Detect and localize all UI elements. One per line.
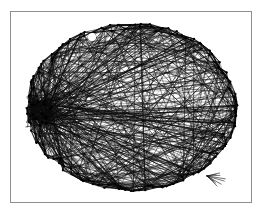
- graph-node: [119, 185, 121, 187]
- graph-node: [165, 185, 167, 187]
- graph-node: [93, 181, 95, 183]
- graph-node: [40, 63, 42, 65]
- graph-node: [37, 71, 39, 73]
- graph-node: [33, 86, 35, 88]
- graph-node: [55, 52, 57, 54]
- graph-node: [80, 179, 82, 181]
- graph-node: [227, 87, 229, 89]
- graph-node: [181, 176, 183, 178]
- graph-node: [80, 33, 82, 35]
- graph-node: [203, 167, 205, 169]
- graph-node: [68, 41, 70, 43]
- white-hole: [88, 33, 96, 41]
- graph-node: [211, 53, 213, 55]
- graph-node: [114, 183, 116, 185]
- graph-node: [63, 165, 65, 167]
- graph-node: [44, 150, 46, 152]
- graph-node: [51, 106, 54, 109]
- graph-node: [77, 38, 79, 40]
- graph-node: [58, 162, 60, 164]
- graph-node: [62, 169, 64, 171]
- graph-node: [155, 30, 157, 32]
- graph-node: [219, 61, 221, 63]
- graph-node: [38, 125, 40, 127]
- graph-node: [31, 103, 34, 106]
- graph-node: [51, 53, 53, 55]
- graph-node: [218, 66, 220, 68]
- graph-node: [124, 189, 126, 191]
- graph-node: [110, 30, 112, 32]
- graph-node: [134, 23, 136, 25]
- graph-node: [97, 184, 99, 186]
- graph-node: [200, 169, 202, 171]
- graph-node: [209, 49, 211, 51]
- graph-node: [109, 24, 111, 26]
- graph-node: [234, 93, 236, 95]
- graph-node: [144, 189, 146, 191]
- graph-node: [197, 171, 199, 173]
- graph-node: [39, 135, 41, 137]
- graph-node: [213, 61, 215, 63]
- graph-node: [223, 133, 225, 135]
- graph-node: [92, 183, 94, 185]
- graph-node: [233, 122, 235, 124]
- graph-node: [140, 23, 142, 25]
- graph-node: [209, 162, 211, 164]
- graph-node: [42, 144, 44, 146]
- graph-node: [234, 125, 236, 127]
- graph-node: [70, 173, 72, 175]
- graph-node: [225, 143, 227, 145]
- graph-node: [180, 34, 182, 36]
- graph-node: [29, 115, 31, 117]
- graph-node: [40, 113, 43, 116]
- graph-node: [172, 183, 174, 185]
- graph-node: [26, 107, 28, 109]
- graph-node: [118, 188, 120, 190]
- graph-node: [43, 115, 46, 118]
- graph-node: [83, 35, 85, 37]
- graph-node: [231, 131, 233, 133]
- graph-node: [42, 60, 44, 62]
- graph-node: [226, 76, 228, 78]
- graph-node: [35, 142, 37, 144]
- graph-node: [124, 28, 126, 30]
- graph-node: [187, 173, 189, 175]
- graph-node: [83, 31, 85, 33]
- graph-node: [47, 157, 49, 159]
- figure-root: [0, 0, 261, 217]
- graph-node: [61, 43, 63, 45]
- graph-node: [235, 100, 237, 102]
- graph-node: [138, 189, 140, 191]
- graph-node: [214, 156, 216, 158]
- graph-node: [236, 104, 238, 106]
- graph-node: [38, 71, 40, 73]
- graph-node: [234, 111, 236, 113]
- graph-node: [233, 96, 235, 98]
- graph-node: [187, 170, 189, 172]
- graph-node: [209, 160, 211, 162]
- graph-node: [176, 30, 178, 32]
- edge-layer: [26, 24, 238, 191]
- graph-node: [162, 27, 164, 29]
- graph-node: [45, 122, 48, 125]
- graph-node: [152, 186, 154, 188]
- graph-node: [200, 47, 202, 49]
- graph-node: [70, 167, 72, 169]
- graph-node: [176, 181, 178, 183]
- graph-node: [107, 184, 109, 186]
- graph-node: [167, 27, 169, 29]
- graph-node: [28, 101, 30, 103]
- graph-node: [35, 117, 38, 120]
- graph-node: [88, 180, 90, 182]
- graph-node: [148, 185, 150, 187]
- graph-node: [94, 31, 96, 33]
- graph-node: [185, 37, 187, 39]
- graph-node: [228, 81, 230, 83]
- graph-node: [37, 101, 40, 104]
- graph-node: [43, 100, 46, 103]
- graph-node: [59, 158, 61, 160]
- graph-node: [117, 24, 119, 26]
- graph-node: [132, 190, 134, 192]
- graph-node: [235, 115, 237, 117]
- graph-node: [225, 138, 227, 140]
